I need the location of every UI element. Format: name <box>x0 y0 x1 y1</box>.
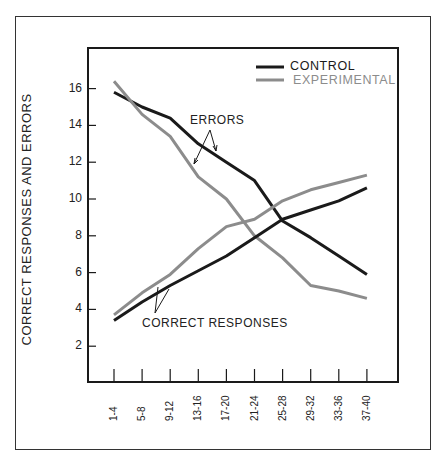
x-tick-label: 25-28 <box>277 395 288 421</box>
x-tick-label: 5-8 <box>136 407 147 421</box>
y-axis-ticks <box>88 89 96 347</box>
x-tick-label: 9-12 <box>164 401 175 421</box>
x-tick-label: 37-40 <box>361 395 372 421</box>
x-axis-ticks <box>114 369 367 382</box>
annotation-errors: ERRORS <box>190 113 244 127</box>
annotation-correct-responses: CORRECT RESPONSES <box>142 316 288 330</box>
series-line <box>114 188 367 320</box>
legend-control-label: CONTROL <box>290 59 355 73</box>
x-tick-label: 33-36 <box>333 395 344 421</box>
series-line <box>114 175 367 315</box>
x-tick-label: 13-16 <box>192 395 203 421</box>
y-tick-label: 12 <box>60 154 82 168</box>
plot-area <box>88 48 398 382</box>
y-tick-label: 8 <box>60 228 82 242</box>
x-tick-label: 1-4 <box>108 407 119 421</box>
y-tick-label: 16 <box>60 81 82 95</box>
y-tick-label: 2 <box>60 338 82 352</box>
y-tick-label: 10 <box>60 191 82 205</box>
y-axis-label: CORRECT RESPONSES AND ERRORS <box>19 106 34 346</box>
y-tick-label: 6 <box>60 265 82 279</box>
x-tick-label: 29-32 <box>305 395 316 421</box>
x-tick-label: 17-20 <box>220 395 231 421</box>
y-tick-label: 14 <box>60 117 82 131</box>
x-tick-label: 21-24 <box>249 395 260 421</box>
y-tick-label: 4 <box>60 301 82 315</box>
legend-experimental-label: EXPERIMENTAL <box>293 73 396 87</box>
